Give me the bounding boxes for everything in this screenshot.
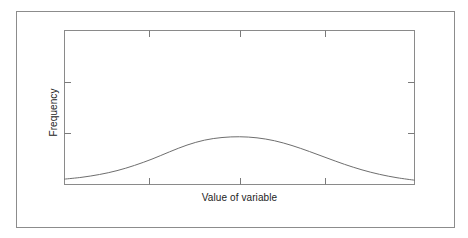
x-axis-label: Value of variable <box>64 192 415 203</box>
left-axis-ticks <box>65 83 72 134</box>
figure-container: Frequency Value of variable <box>0 0 468 238</box>
y-axis-label: Frequency <box>48 33 59 193</box>
bottom-axis-ticks <box>150 178 326 185</box>
right-axis-ticks <box>408 83 415 134</box>
plot-frame <box>65 31 415 185</box>
distribution-curve <box>65 137 415 180</box>
top-axis-ticks <box>150 31 326 38</box>
